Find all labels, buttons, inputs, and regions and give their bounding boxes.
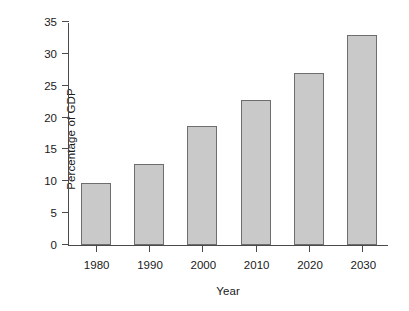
x-tick: 2030 [362, 245, 363, 252]
x-tick: 2000 [202, 245, 203, 252]
bar [241, 100, 271, 245]
x-tick: 1980 [96, 245, 97, 252]
y-tick-label: 30 [44, 48, 57, 60]
y-tick: 35 [62, 21, 69, 22]
x-tick: 2020 [309, 245, 310, 252]
y-tick-label: 25 [44, 80, 57, 92]
y-tick: 15 [62, 148, 69, 149]
bar [187, 126, 217, 245]
plot-area: 05101520253035 198019902000201020202030 [68, 23, 388, 246]
x-tick-label: 2020 [297, 259, 323, 271]
x-tick: 1990 [149, 245, 150, 252]
x-tick-label: 1990 [137, 259, 163, 271]
bar [347, 35, 377, 245]
y-tick-label: 20 [44, 112, 57, 124]
y-tick-label: 0 [51, 239, 57, 251]
y-tick: 5 [62, 212, 69, 213]
y-tick-label: 10 [44, 175, 57, 187]
bar [294, 73, 324, 245]
y-tick-label: 15 [44, 143, 57, 155]
y-tick: 10 [62, 180, 69, 181]
bar-chart: Percentage of GDP 05101520253035 1980199… [0, 0, 409, 311]
y-tick: 20 [62, 117, 69, 118]
y-tick: 30 [62, 53, 69, 54]
y-tick-label: 5 [51, 207, 57, 219]
x-tick-label: 2010 [244, 259, 270, 271]
x-tick-label: 2000 [191, 259, 217, 271]
y-tick: 25 [62, 85, 69, 86]
x-axis-title: Year [68, 285, 388, 297]
x-tick-label: 1980 [84, 259, 110, 271]
x-tick-label: 2030 [351, 259, 377, 271]
bar [134, 164, 164, 245]
y-tick: 0 [62, 244, 69, 245]
x-tick: 2010 [256, 245, 257, 252]
bar [81, 183, 111, 245]
y-tick-label: 35 [44, 16, 57, 28]
